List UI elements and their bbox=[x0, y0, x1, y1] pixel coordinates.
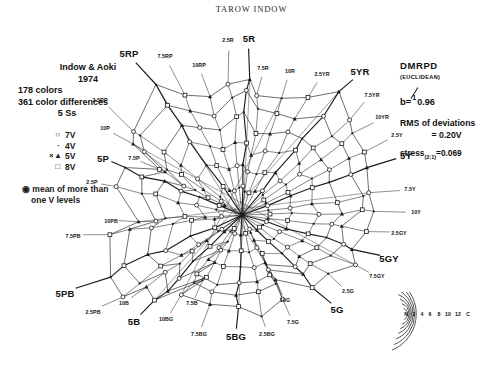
data-point bbox=[310, 186, 314, 190]
data-point bbox=[162, 150, 166, 154]
data-point bbox=[266, 268, 270, 272]
data-point bbox=[267, 209, 269, 211]
data-point bbox=[275, 283, 277, 285]
data-point bbox=[367, 191, 371, 195]
data-point bbox=[144, 285, 148, 289]
data-point bbox=[285, 245, 289, 249]
hue-label-2-5gy: 2.5GY bbox=[391, 230, 407, 236]
data-point bbox=[308, 262, 312, 266]
data-point bbox=[306, 232, 310, 236]
data-point bbox=[239, 249, 243, 253]
hue-label-2-5yr: 2.5YR bbox=[314, 71, 329, 77]
hue-label-2-5r: 2.5R bbox=[222, 37, 234, 43]
data-point bbox=[262, 198, 266, 202]
hue-label-7-5gy: 7.5GY bbox=[369, 273, 385, 279]
data-point bbox=[190, 218, 194, 222]
data-point bbox=[362, 195, 364, 197]
data-point bbox=[248, 77, 252, 81]
data-point bbox=[205, 164, 207, 166]
data-point bbox=[182, 184, 186, 188]
data-point bbox=[363, 150, 367, 154]
hue-label-7-5y: 7.5Y bbox=[404, 186, 415, 192]
hue-label-5gy: 5GY bbox=[379, 253, 399, 264]
hue-label-7-5pb: 7.5PB bbox=[65, 233, 80, 239]
data-point bbox=[221, 184, 225, 188]
data-point bbox=[315, 246, 319, 250]
data-point bbox=[208, 244, 212, 248]
data-point bbox=[268, 212, 272, 216]
data-point bbox=[331, 135, 333, 137]
data-point bbox=[194, 189, 196, 191]
data-point bbox=[206, 196, 210, 200]
data-point bbox=[244, 88, 248, 92]
legend-item-5v: × ▴ 5V bbox=[30, 151, 140, 162]
hue-label-5pb: 5PB bbox=[55, 288, 74, 299]
legend-note-line2: one V levels bbox=[22, 195, 157, 206]
hue-label-10g: 10G bbox=[280, 297, 290, 303]
data-point bbox=[195, 272, 199, 276]
data-point bbox=[149, 226, 153, 230]
rms-value: = 0.20V bbox=[400, 129, 503, 141]
data-point bbox=[210, 290, 214, 294]
caption-authors: Indow & Aoki bbox=[18, 62, 158, 74]
rms-label: RMS of deviations bbox=[400, 117, 503, 129]
circle-icon: ○ bbox=[30, 130, 65, 141]
stats-subheader: (EUCLIDEAN) bbox=[400, 71, 503, 83]
hue-label-5bg: 5BG bbox=[226, 331, 246, 342]
b-value: b= 1 0.96 bbox=[400, 94, 503, 108]
data-point bbox=[278, 179, 282, 183]
caption-subjects: 5 Ss bbox=[18, 108, 158, 120]
data-point bbox=[190, 249, 194, 253]
data-point bbox=[213, 226, 217, 230]
legend-label-8v: 8V bbox=[65, 162, 75, 173]
data-point bbox=[158, 167, 162, 171]
data-point bbox=[245, 141, 249, 145]
data-point bbox=[163, 270, 167, 274]
data-point bbox=[188, 140, 192, 144]
data-point bbox=[229, 230, 231, 232]
hue-label-5b: 5B bbox=[128, 316, 141, 327]
data-point bbox=[278, 230, 282, 234]
data-point bbox=[221, 148, 225, 152]
data-point bbox=[360, 208, 364, 212]
data-point bbox=[198, 196, 200, 198]
hue-label-5yr: 5YR bbox=[350, 66, 369, 77]
data-point bbox=[110, 276, 112, 278]
data-point bbox=[142, 150, 146, 154]
data-point bbox=[351, 132, 353, 134]
data-point bbox=[235, 164, 239, 168]
data-point bbox=[192, 260, 194, 262]
data-point bbox=[239, 266, 241, 268]
data-point bbox=[311, 146, 315, 150]
data-point bbox=[196, 177, 200, 181]
data-point bbox=[164, 217, 166, 219]
data-point bbox=[325, 236, 327, 238]
hue-label-2-5p: 2.5P bbox=[86, 179, 97, 185]
data-point bbox=[179, 293, 183, 297]
data-point bbox=[256, 290, 260, 294]
data-point bbox=[227, 241, 229, 243]
chroma-key-label-4: 4 bbox=[421, 311, 424, 317]
data-point bbox=[248, 251, 250, 253]
data-point bbox=[197, 243, 201, 247]
data-point bbox=[263, 149, 267, 153]
data-point bbox=[311, 177, 313, 179]
data-point bbox=[286, 130, 290, 134]
data-point bbox=[243, 111, 245, 113]
data-point bbox=[219, 248, 223, 252]
data-point bbox=[286, 190, 290, 194]
legend: ○ 7V · 4V × ▴ 5V □ 8V bbox=[30, 130, 140, 172]
data-point bbox=[219, 196, 221, 198]
data-point bbox=[179, 163, 183, 167]
data-point bbox=[228, 188, 232, 192]
data-point bbox=[140, 175, 144, 179]
caption-colors: 178 colors bbox=[18, 85, 158, 97]
stress-value: stress(2;1)=0.069 bbox=[400, 147, 503, 163]
data-point bbox=[246, 170, 250, 174]
neutral-center-point bbox=[240, 213, 245, 218]
data-point bbox=[285, 184, 287, 186]
chroma-scale-key: N24681012C bbox=[392, 292, 500, 368]
dot-icon: · bbox=[30, 141, 65, 152]
hue-label-2-5y: 2.5Y bbox=[391, 132, 402, 138]
chroma-key-labels: N24681012C bbox=[392, 292, 500, 368]
